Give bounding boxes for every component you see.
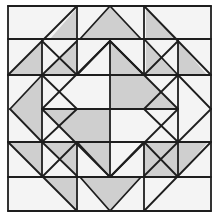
quilt-block-image: [0, 0, 218, 218]
quilt-block-drawing: [0, 0, 218, 218]
